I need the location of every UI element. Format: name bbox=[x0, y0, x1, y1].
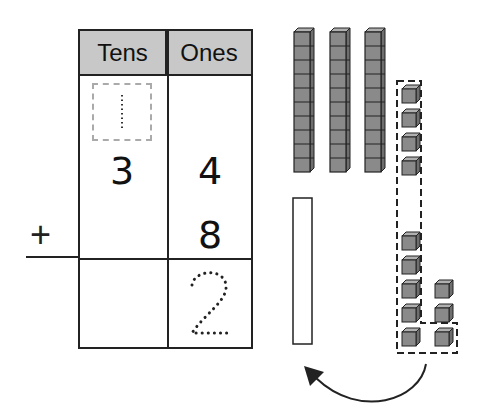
plus-sign: + bbox=[30, 214, 51, 256]
addend1-ones: 4 bbox=[180, 149, 240, 193]
plus-underline bbox=[26, 256, 80, 258]
empty-rod-outline bbox=[293, 198, 312, 344]
addend1-tens: 3 bbox=[92, 149, 152, 193]
tens-header: Tens bbox=[80, 31, 167, 76]
dotted-two bbox=[184, 267, 236, 341]
tens-rods bbox=[294, 28, 385, 172]
ones-header: Ones bbox=[167, 31, 251, 76]
sum-divider bbox=[80, 258, 251, 260]
ones-cubes bbox=[402, 85, 453, 346]
column-divider bbox=[167, 31, 169, 347]
carry-box bbox=[92, 83, 152, 141]
regroup-arrow bbox=[316, 364, 426, 402]
place-value-table: Tens Ones 3 4 8 bbox=[78, 29, 253, 349]
addend2-ones: 8 bbox=[180, 213, 240, 257]
dotted-one bbox=[94, 85, 150, 139]
base-ten-blocks bbox=[280, 20, 485, 419]
